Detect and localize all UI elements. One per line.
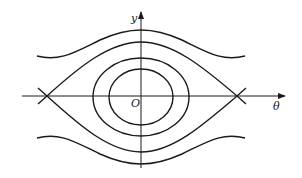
separatrix-lower (38, 88, 246, 152)
y-axis-label: y (130, 12, 138, 25)
separatrix-upper (38, 42, 246, 104)
origin-label: O (131, 97, 140, 110)
theta-axis-label: θ (273, 100, 280, 113)
phase-portrait-diagram: y θ O (0, 0, 302, 178)
